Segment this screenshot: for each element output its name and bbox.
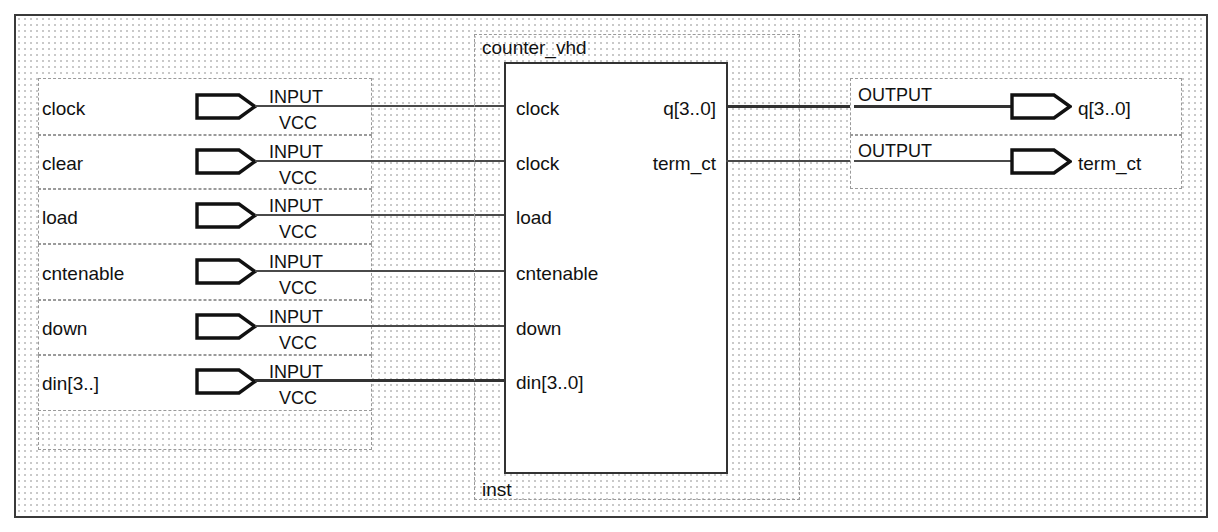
input-pin-symbol-clear[interactable] bbox=[195, 148, 257, 175]
block-pin-clock-2: clock bbox=[516, 154, 559, 173]
input-label-clock: clock bbox=[42, 99, 85, 118]
schematic-canvas: clock INPUT VCC clear INPUT VCC load INP… bbox=[0, 0, 1218, 532]
input-default-label-clock: VCC bbox=[279, 114, 317, 132]
wire-cntenable bbox=[255, 270, 504, 272]
instance-title-counter-vhd: counter_vhd bbox=[482, 38, 587, 57]
block-pin-din: din[3..0] bbox=[516, 373, 584, 392]
wire-din-bus bbox=[255, 379, 504, 382]
input-type-label-clock: INPUT bbox=[269, 88, 323, 106]
block-pin-clock-1: clock bbox=[516, 99, 559, 118]
input-pin-symbol-din[interactable] bbox=[195, 368, 257, 395]
output-pin-symbol-q[interactable] bbox=[1010, 93, 1072, 120]
input-label-clear: clear bbox=[42, 154, 83, 173]
input-pin-symbol-down[interactable] bbox=[195, 313, 257, 340]
output-pin-symbol-term-ct[interactable] bbox=[1010, 148, 1072, 175]
input-label-din: din[3..] bbox=[42, 374, 99, 393]
wire-term-ct-to-pin bbox=[854, 160, 1016, 162]
wire-clear bbox=[255, 160, 504, 162]
input-type-label-down: INPUT bbox=[269, 308, 323, 326]
block-pin-cntenable: cntenable bbox=[516, 264, 598, 283]
counter-vhd-block[interactable]: clock clock load cntenable down din[3..0… bbox=[504, 62, 728, 474]
input-pin-symbol-cntenable[interactable] bbox=[195, 258, 257, 285]
wire-q-to-pin bbox=[854, 105, 1016, 108]
wire-clock bbox=[255, 105, 504, 107]
instance-name-inst: inst bbox=[482, 480, 512, 499]
input-label-cntenable: cntenable bbox=[42, 264, 124, 283]
wire-down bbox=[255, 325, 504, 327]
wire-load bbox=[255, 214, 504, 216]
block-pin-term-ct: term_ct bbox=[653, 154, 716, 173]
input-type-label-load: INPUT bbox=[269, 197, 323, 215]
input-type-label-cntenable: INPUT bbox=[269, 253, 323, 271]
input-default-label-din: VCC bbox=[279, 389, 317, 407]
input-type-label-clear: INPUT bbox=[269, 143, 323, 161]
input-default-label-down: VCC bbox=[279, 334, 317, 352]
block-pin-q: q[3..0] bbox=[663, 99, 716, 118]
block-pin-load: load bbox=[516, 208, 552, 227]
input-default-label-clear: VCC bbox=[279, 169, 317, 187]
block-pin-down: down bbox=[516, 319, 561, 338]
input-label-load: load bbox=[42, 208, 78, 227]
input-pin-symbol-clock[interactable] bbox=[195, 93, 257, 120]
output-type-label-term-ct: OUTPUT bbox=[858, 142, 932, 160]
input-default-label-load: VCC bbox=[279, 223, 317, 241]
output-label-term-ct: term_ct bbox=[1078, 154, 1141, 173]
schematic-sheet-frame: clock INPUT VCC clear INPUT VCC load INP… bbox=[14, 14, 1208, 518]
input-default-label-cntenable: VCC bbox=[279, 279, 317, 297]
input-pin-symbol-load[interactable] bbox=[195, 202, 257, 229]
input-label-down: down bbox=[42, 319, 87, 338]
output-label-q: q[3..0] bbox=[1078, 99, 1131, 118]
output-type-label-q: OUTPUT bbox=[858, 86, 932, 104]
